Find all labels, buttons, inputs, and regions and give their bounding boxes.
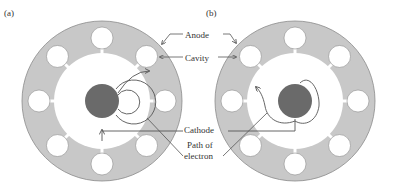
path-label-line2: electron [184, 151, 213, 161]
cavity [28, 90, 50, 112]
cavity [221, 90, 243, 112]
cavity [329, 135, 351, 157]
cavity-label: Cavity [185, 53, 209, 63]
cavity [91, 27, 113, 49]
anode-leader-a [162, 34, 183, 44]
cavity [329, 45, 351, 67]
cavity [239, 45, 261, 67]
path-label-line1: Path of [187, 140, 213, 150]
cathode [278, 84, 312, 118]
cavity [46, 45, 68, 67]
cavity [136, 135, 158, 157]
anode-leader-b [223, 34, 236, 43]
magnetron-diagram [0, 0, 393, 193]
panel-b-label: (b) [206, 8, 217, 18]
cathode-label: Cathode [184, 125, 214, 135]
anode-label: Anode [185, 30, 209, 40]
cavity [46, 135, 68, 157]
cavity [91, 153, 113, 175]
cavity [284, 27, 306, 49]
cathode [85, 84, 119, 118]
cavity [284, 153, 306, 175]
cavity [347, 90, 369, 112]
cavity [136, 45, 158, 67]
cavity [239, 135, 261, 157]
cavity [154, 90, 176, 112]
panel-a-label: (a) [4, 8, 14, 18]
